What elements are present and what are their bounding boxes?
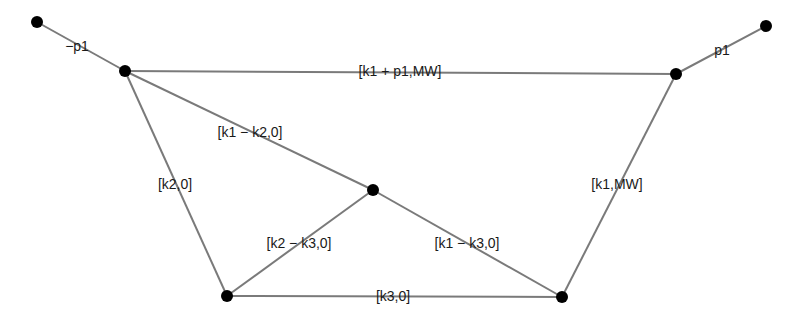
graph-node xyxy=(119,65,131,77)
graph-diagram: −p1[k1 + p1,MW]p1[k1 − k2,0][k2,0][k1,MW… xyxy=(0,0,794,331)
edge-label: [k1 + p1,MW] xyxy=(359,63,442,79)
edge-label: [k2 − k3,0] xyxy=(267,235,332,251)
graph-node xyxy=(221,290,233,302)
graph-node xyxy=(556,291,568,303)
graph-node xyxy=(367,184,379,196)
edge-label: p1 xyxy=(714,42,730,58)
graph-node xyxy=(760,20,772,32)
edge-labels-layer: −p1[k1 + p1,MW]p1[k1 − k2,0][k2,0][k1,MW… xyxy=(65,38,730,304)
edge-label: [k3,0] xyxy=(376,288,410,304)
edge-label: [k1,MW] xyxy=(591,176,642,192)
edge-label: −p1 xyxy=(65,38,89,54)
graph-node xyxy=(31,16,43,28)
edge-label: [k1 − k3,0] xyxy=(435,235,500,251)
graph-node xyxy=(670,68,682,80)
nodes-layer xyxy=(31,16,772,303)
edge-label: [k1 − k2,0] xyxy=(218,124,283,140)
edge-label: [k2,0] xyxy=(158,176,192,192)
